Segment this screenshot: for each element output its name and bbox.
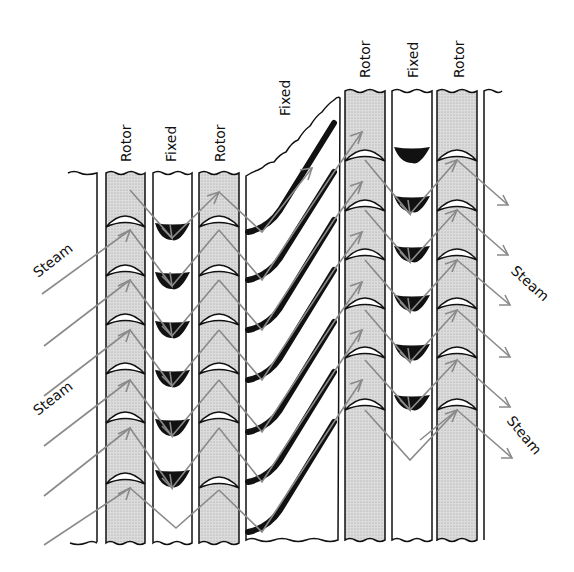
label-fixed-3: Fixed: [405, 42, 421, 78]
steam-label-right-lower: Steam: [504, 413, 545, 458]
label-fixed-2: Fixed: [277, 80, 293, 116]
steam-label-right-upper: Steam: [508, 262, 552, 304]
label-rotor-3: Rotor: [357, 40, 373, 78]
turbine-diagram: Rotor Fixed Rotor Fixed Rotor Fixed Roto…: [0, 0, 574, 572]
rotor-row-2: [199, 172, 239, 545]
label-rotor-4: Rotor: [451, 40, 467, 78]
rotor-row-1: [106, 172, 145, 545]
label-rotor-1: Rotor: [118, 124, 134, 162]
label-fixed-1: Fixed: [163, 126, 179, 162]
steam-label-left-lower: Steam: [30, 378, 75, 418]
label-rotor-2: Rotor: [212, 124, 228, 162]
casing-right: [484, 90, 502, 541]
